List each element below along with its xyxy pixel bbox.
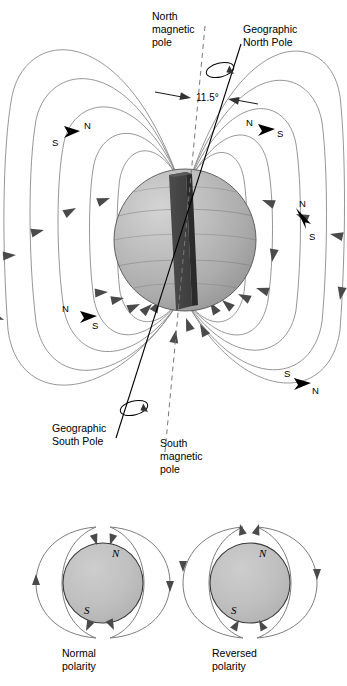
- north-spin-indicator: [205, 60, 237, 80]
- svg-text:N: N: [246, 117, 253, 128]
- label-geographic-south-pole: Geographic South Pole: [52, 422, 106, 447]
- svg-text:N: N: [299, 198, 306, 209]
- svg-text:Geographic: Geographic: [52, 422, 106, 434]
- svg-text:North: North: [152, 10, 178, 22]
- svg-text:pole: pole: [152, 36, 172, 48]
- label-north-magnetic-pole: North magnetic pole: [152, 10, 195, 48]
- svg-text:South Pole: South Pole: [52, 435, 104, 447]
- reversed-polarity-caption-2: polarity: [212, 660, 247, 672]
- normal-polarity-globe: [63, 543, 143, 623]
- svg-text:S: S: [284, 368, 290, 379]
- magnetic-field-diagram: 11.5° North magnetic pole Geographic Nor…: [0, 0, 347, 686]
- svg-text:S: S: [309, 231, 315, 242]
- normal-polarity-diagram: N S Normal polarity: [32, 527, 174, 672]
- svg-text:Geographic: Geographic: [243, 23, 297, 35]
- compass-right: N S: [296, 198, 315, 242]
- svg-text:pole: pole: [160, 463, 180, 475]
- svg-text:South: South: [160, 437, 188, 449]
- svg-text:N: N: [312, 385, 319, 396]
- reversed-north-pole-label: N: [258, 547, 267, 559]
- svg-text:S: S: [92, 320, 98, 331]
- tilt-angle-label: 11.5°: [196, 92, 219, 103]
- normal-north-pole-label: N: [111, 547, 120, 559]
- tilt-angle-group: 11.5°: [155, 92, 258, 105]
- reversed-polarity-globe: [210, 543, 290, 623]
- diagram-canvas: 11.5° North magnetic pole Geographic Nor…: [0, 0, 347, 686]
- svg-text:S: S: [52, 137, 58, 148]
- svg-text:N: N: [84, 120, 91, 131]
- compass-upper-right: N S: [246, 117, 283, 139]
- normal-south-pole-label: S: [84, 604, 90, 616]
- svg-text:magnetic: magnetic: [160, 450, 203, 462]
- svg-text:magnetic: magnetic: [152, 23, 195, 35]
- svg-text:North Pole: North Pole: [243, 36, 293, 48]
- label-geographic-north-pole: Geographic North Pole: [243, 23, 297, 48]
- reversed-polarity-diagram: N S Reversed polarity: [179, 523, 321, 672]
- svg-text:N: N: [62, 303, 69, 314]
- label-south-magnetic-pole: South magnetic pole: [160, 437, 203, 475]
- normal-polarity-caption-2: polarity: [62, 660, 97, 672]
- normal-polarity-caption-1: Normal: [62, 647, 96, 659]
- compass-lower-left: N S: [62, 303, 98, 331]
- compass-lower-right: S N: [284, 368, 319, 396]
- svg-text:S: S: [277, 128, 283, 139]
- reversed-south-pole-label: S: [231, 604, 237, 616]
- reversed-polarity-caption-1: Reversed: [212, 647, 257, 659]
